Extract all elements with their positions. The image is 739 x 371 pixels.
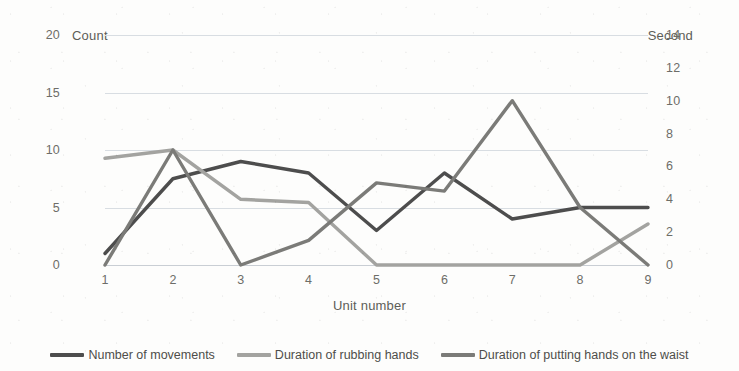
x-axis-tick-label: 2 bbox=[161, 274, 185, 287]
legend-swatch-icon bbox=[50, 353, 84, 357]
right-axis-tick-label: 8 bbox=[666, 128, 694, 141]
legend-label: Duration of rubbing hands bbox=[275, 348, 419, 362]
right-axis-tick-label: 4 bbox=[666, 193, 694, 206]
x-axis-tick-label: 6 bbox=[432, 274, 456, 287]
x-axis-tick-label: 8 bbox=[568, 274, 592, 287]
series-line bbox=[105, 150, 648, 265]
legend-label: Number of movements bbox=[88, 348, 214, 362]
chart-legend: Number of movementsDuration of rubbing h… bbox=[0, 348, 739, 362]
legend-item[interactable]: Number of movements bbox=[50, 348, 214, 362]
legend-swatch-icon bbox=[237, 353, 271, 357]
right-axis-tick-label: 6 bbox=[666, 160, 694, 173]
x-axis-tick-label: 1 bbox=[93, 274, 117, 287]
plot-area bbox=[105, 35, 648, 265]
left-axis-title: Count bbox=[72, 28, 108, 43]
left-axis-tick-label: 10 bbox=[36, 144, 60, 157]
right-axis-tick-label: 2 bbox=[666, 226, 694, 239]
legend-swatch-icon bbox=[441, 353, 475, 357]
x-axis-tick-label: 5 bbox=[365, 274, 389, 287]
left-axis-tick-label: 15 bbox=[36, 87, 60, 100]
line-chart: Count Second Unit number 05101520 024681… bbox=[0, 0, 739, 371]
series-line bbox=[105, 101, 648, 265]
x-axis-tick-label: 9 bbox=[636, 274, 660, 287]
x-axis-tick-label: 7 bbox=[500, 274, 524, 287]
x-axis-title: Unit number bbox=[0, 298, 739, 313]
legend-item[interactable]: Duration of putting hands on the waist bbox=[441, 348, 689, 362]
x-axis-tick-label: 3 bbox=[229, 274, 253, 287]
right-axis-tick-label: 10 bbox=[666, 95, 694, 108]
left-axis-tick-label: 20 bbox=[36, 29, 60, 42]
series-lines bbox=[105, 35, 648, 265]
x-axis-tick-label: 4 bbox=[297, 274, 321, 287]
right-axis-tick-label: 0 bbox=[666, 259, 694, 272]
legend-item[interactable]: Duration of rubbing hands bbox=[237, 348, 419, 362]
left-axis-tick-label: 0 bbox=[36, 259, 60, 272]
right-axis-tick-label: 12 bbox=[666, 62, 694, 75]
left-axis-tick-label: 5 bbox=[36, 202, 60, 215]
right-axis-tick-label: 14 bbox=[666, 29, 694, 42]
legend-label: Duration of putting hands on the waist bbox=[479, 348, 689, 362]
